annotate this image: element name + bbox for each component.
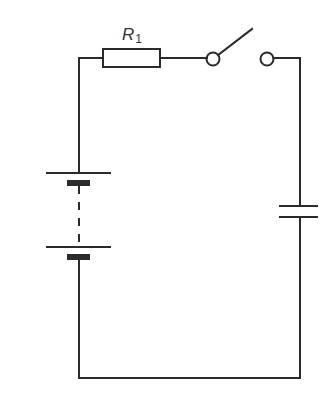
battery-cell1-negative: [67, 180, 90, 186]
battery: [47, 150, 110, 260]
resistor-r1: [103, 49, 160, 67]
wire-bottom: [79, 217, 300, 378]
battery-cell2-negative: [67, 254, 90, 260]
switch-terminal-right: [261, 53, 274, 66]
wire-top-right: [274, 58, 301, 206]
capacitor: [280, 206, 317, 217]
wire-top-left: [79, 58, 103, 150]
switch-lever: [218, 29, 252, 55]
circuit-diagram: R1: [0, 0, 336, 394]
resistor-label: R1: [122, 25, 142, 46]
switch: [207, 29, 274, 66]
